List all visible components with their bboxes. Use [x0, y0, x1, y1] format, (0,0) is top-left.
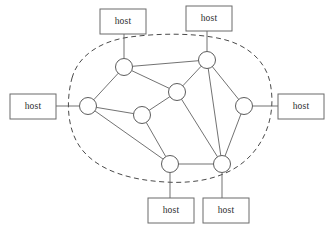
- router-link: [132, 71, 170, 89]
- router-bottom-left-node[interactable]: [162, 156, 179, 173]
- router-link: [225, 114, 241, 156]
- router-link: [94, 73, 118, 100]
- router-link: [146, 122, 166, 156]
- router-right-node[interactable]: [236, 98, 253, 115]
- router-center-left-node[interactable]: [134, 107, 151, 124]
- host-top-left[interactable]: host: [100, 9, 146, 34]
- host-bottom-left[interactable]: host: [148, 198, 194, 223]
- network-topology-diagram: hosthosthosthosthosthost: [0, 0, 328, 234]
- router-link: [95, 111, 163, 159]
- host-left[interactable]: host: [10, 94, 56, 119]
- router-link: [149, 97, 170, 111]
- host-top-right-label: host: [201, 13, 218, 23]
- router-center-node[interactable]: [169, 84, 186, 101]
- host-top-right[interactable]: host: [186, 6, 232, 31]
- router-link: [96, 107, 133, 113]
- host-bottom-left-label: host: [163, 205, 180, 215]
- host-top-left-label: host: [115, 16, 132, 26]
- router-link: [132, 61, 198, 67]
- routers-group: [80, 52, 253, 173]
- router-left-node[interactable]: [80, 98, 97, 115]
- host-bottom-right[interactable]: host: [203, 198, 249, 223]
- router-link: [183, 66, 201, 86]
- host-bottom-right-label: host: [218, 205, 235, 215]
- host-right-label: host: [293, 101, 310, 111]
- router-top-right-node[interactable]: [199, 52, 216, 69]
- diagram-canvas: hosthosthosthosthosthost: [0, 0, 328, 234]
- router-link: [212, 67, 238, 100]
- hosts-group: hosthosthosthosthosthost: [10, 6, 324, 223]
- router-link: [208, 68, 221, 155]
- host-right[interactable]: host: [278, 94, 324, 119]
- host-left-label: host: [25, 101, 42, 111]
- router-link: [182, 99, 218, 157]
- router-top-left-node[interactable]: [116, 59, 133, 76]
- router-bottom-right-node[interactable]: [214, 156, 231, 173]
- router-links-group: [94, 61, 241, 164]
